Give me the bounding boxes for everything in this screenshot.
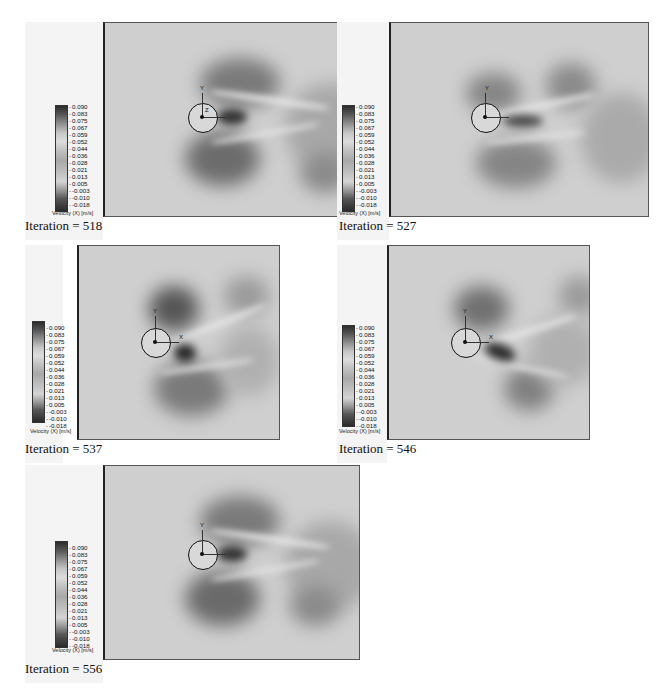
y-label: Y	[200, 522, 204, 528]
panel-iteration-556: 0.090 0.083 0.075 0.067 0.059 0.052 0.04…	[25, 465, 355, 688]
tick: 0.059	[69, 572, 103, 579]
colorbar	[342, 325, 355, 427]
velocity-field: Y Z	[103, 22, 360, 217]
tick: 0.044	[69, 145, 103, 152]
tick: 0.036	[356, 152, 390, 159]
origin	[483, 115, 487, 119]
colorbar	[55, 541, 68, 648]
y-label: Y	[200, 85, 204, 91]
colorbar	[32, 321, 45, 423]
tick: 0.067	[69, 565, 103, 572]
iteration-caption: Iteration = 537	[25, 441, 102, 457]
origin	[153, 340, 157, 344]
tick: -0.018	[69, 201, 103, 208]
tick: 0.067	[356, 345, 390, 352]
tick: -0.010	[356, 194, 390, 201]
tick: 0.075	[69, 558, 103, 565]
tick: 0.052	[69, 138, 103, 145]
colorbar-label: Velocity (X) [m/s]	[52, 647, 93, 653]
tick: 0.067	[46, 345, 80, 352]
tick: 0.021	[356, 387, 390, 394]
tick: 0.036	[356, 373, 390, 380]
tick: 0.067	[69, 124, 103, 131]
tick: 0.044	[46, 366, 80, 373]
recirculation-zone	[174, 344, 196, 362]
tick: 0.036	[46, 373, 80, 380]
y-axis	[202, 93, 203, 117]
tick: 0.090	[69, 103, 103, 110]
tick: -0.010	[46, 415, 80, 422]
tick: -0.010	[69, 194, 103, 201]
tick: 0.052	[46, 359, 80, 366]
tick: 0.028	[69, 159, 103, 166]
tick: 0.021	[46, 387, 80, 394]
y-axis	[485, 93, 486, 117]
x-axis	[202, 554, 226, 555]
panel-iteration-527: 0.090 0.083 0.075 0.067 0.059 0.052 0.04…	[337, 22, 663, 247]
colorbar	[55, 105, 68, 212]
x-label: X	[179, 334, 183, 340]
colorbar-ticks: 0.090 0.083 0.075 0.067 0.059 0.052 0.04…	[356, 103, 390, 208]
tick: 0.059	[356, 352, 390, 359]
colorbar-label: Velocity (X) [m/s]	[30, 428, 71, 434]
tick: 0.005	[69, 180, 103, 187]
velocity-field: Y	[103, 465, 360, 660]
velocity-field: Y	[389, 22, 649, 217]
tick: 0.044	[356, 145, 390, 152]
tick: 0.036	[69, 152, 103, 159]
tick: -0.003	[69, 628, 103, 635]
tick: 0.083	[356, 110, 390, 117]
origin	[463, 340, 467, 344]
tick: 0.013	[46, 394, 80, 401]
tick: 0.044	[356, 366, 390, 373]
tick: 0.083	[69, 110, 103, 117]
tick: 0.075	[356, 338, 390, 345]
tick: 0.090	[356, 324, 390, 331]
iteration-caption: Iteration = 527	[339, 218, 416, 234]
x-label: X	[489, 334, 493, 340]
tick: 0.021	[69, 607, 103, 614]
tick: 0.028	[356, 380, 390, 387]
iteration-caption: Iteration = 546	[339, 441, 416, 457]
tick: 0.021	[69, 166, 103, 173]
colorbar-label: Velocity (X) [m/s]	[339, 210, 380, 216]
iteration-caption: Iteration = 518	[25, 218, 102, 234]
colorbar-ticks: 0.090 0.083 0.075 0.067 0.059 0.052 0.04…	[356, 324, 390, 429]
tick: -0.003	[46, 408, 80, 415]
tick: 0.013	[356, 394, 390, 401]
tick: 0.083	[69, 551, 103, 558]
x-axis	[155, 342, 179, 343]
tick: 0.075	[69, 117, 103, 124]
y-axis	[465, 316, 466, 342]
tick: 0.059	[356, 131, 390, 138]
tick: 0.090	[356, 103, 390, 110]
tick: 0.013	[356, 173, 390, 180]
tick: 0.044	[69, 586, 103, 593]
tick: 0.005	[46, 401, 80, 408]
y-axis	[155, 316, 156, 342]
tick: 0.067	[356, 124, 390, 131]
x-axis	[465, 342, 489, 343]
velocity-field: Y X	[387, 245, 590, 440]
tick: 0.090	[46, 324, 80, 331]
recirculation-zone	[503, 115, 543, 127]
tick: 0.028	[356, 159, 390, 166]
wake-region	[581, 93, 649, 183]
vortex-region	[476, 138, 556, 188]
origin	[200, 115, 204, 119]
iteration-caption: Iteration = 556	[25, 661, 102, 677]
origin	[200, 552, 204, 556]
tick: 0.005	[69, 621, 103, 628]
colorbar-label: Velocity (X) [m/s]	[52, 210, 93, 216]
velocity-field: Y X	[77, 245, 280, 440]
tick: 0.013	[69, 614, 103, 621]
tick: 0.052	[356, 138, 390, 145]
x-axis	[485, 117, 509, 118]
colorbar-label: Velocity (X) [m/s]	[339, 428, 380, 434]
tick: 0.036	[69, 593, 103, 600]
tick: 0.090	[69, 544, 103, 551]
vortex-region	[559, 276, 590, 316]
tick: 0.005	[356, 180, 390, 187]
tick: -0.010	[356, 415, 390, 422]
tick: 0.075	[356, 117, 390, 124]
